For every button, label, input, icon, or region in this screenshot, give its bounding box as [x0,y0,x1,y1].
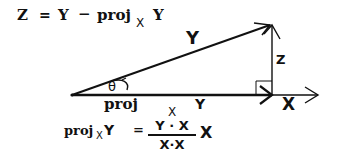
formula-bottom-y: Y [104,123,114,137]
label-proj: proj [104,97,138,112]
formula-bottom-proj: proj [64,124,93,137]
formula-bottom-x: X [200,125,212,141]
formula-bottom-equals: = [133,123,144,136]
label-proj-y: Y [195,97,205,111]
label-vector-x: X [282,96,295,113]
label-angle-theta: θ [108,80,116,93]
formula-fraction: Y · X X·X [148,119,196,151]
vector-y-line [72,25,270,95]
label-vector-z: Z [276,53,285,66]
fraction-denominator: X·X [148,138,196,151]
label-proj-subscript: X [168,106,176,118]
fraction-bar [148,134,196,136]
vector-projection-diagram: Z = Y − proj X Y Y Z X θ proj X Y [0,0,337,159]
origin-point [70,93,73,96]
angle-arc-tick [122,78,126,80]
label-vector-y: Y [186,29,199,47]
fraction-numerator: Y · X [148,119,196,132]
formula-bottom-subscript: X [96,131,103,141]
